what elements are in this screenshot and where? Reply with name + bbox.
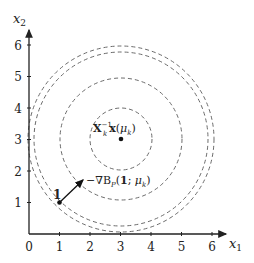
x-axis-label: x1	[229, 236, 242, 253]
gradient-arrow	[60, 180, 84, 203]
level-set-diagram: 0 1 2 3 4 5 6 1 2 3 4 5 6 x1 x2 X−1kx(μk…	[0, 0, 254, 263]
x-tick-label: 1	[56, 240, 64, 254]
center-point-label: X−1kx(μk)	[93, 121, 136, 138]
y-tick-label: 6	[14, 39, 22, 53]
x-tick-label: 4	[147, 240, 155, 254]
y-tick-label: 4	[14, 102, 22, 116]
y-tick-label: 1	[14, 196, 22, 210]
x-tick-label: 6	[208, 240, 216, 254]
y-tick-label: 2	[14, 165, 22, 179]
x-tick-label: 0	[25, 240, 33, 254]
x-tick-label: 3	[117, 240, 125, 254]
gradient-label: −∇BP(1; μk)	[86, 174, 151, 189]
start-point-label: 1	[53, 188, 61, 202]
x-tick-label: 5	[178, 240, 186, 254]
y-axis-label: x2	[13, 11, 26, 28]
center-point	[119, 137, 124, 142]
y-tick-label: 3	[14, 133, 22, 147]
y-tick-label: 5	[14, 70, 22, 84]
x-tick-label: 2	[86, 240, 94, 254]
